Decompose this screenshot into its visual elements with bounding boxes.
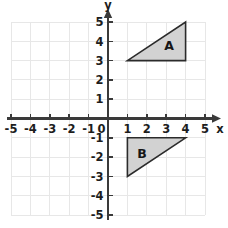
y-tick-label: 2: [95, 73, 103, 87]
x-tick-label: 1: [123, 122, 131, 136]
x-axis-name-label: x: [216, 122, 224, 136]
x-tick-label: -2: [63, 122, 76, 136]
y-tick-label: 3: [95, 54, 103, 68]
x-tick-label: 5: [201, 122, 209, 136]
shape-label-b: B: [137, 146, 147, 161]
x-tick-label: -3: [43, 122, 56, 136]
y-tick-label: 1: [95, 92, 103, 106]
x-tick-label: 3: [162, 122, 170, 136]
y-tick-label: -5: [91, 208, 104, 222]
y-tick-label: -3: [91, 170, 104, 184]
y-tick-label: 4: [95, 35, 103, 49]
shape-label-a: A: [164, 38, 174, 53]
y-tick-label: 5: [95, 15, 103, 29]
x-tick-label: -5: [5, 122, 18, 136]
x-tick-label: 4: [182, 122, 190, 136]
coordinate-plane-svg: -5-4-3-2-11234554321-1-2-3-4-5 AB x y 0: [0, 0, 228, 228]
x-tick-label: -4: [24, 122, 37, 136]
y-axis-name-label: y: [104, 0, 112, 12]
origin-label: 0: [97, 122, 105, 136]
coordinate-plane-figure: -5-4-3-2-11234554321-1-2-3-4-5 AB x y 0: [0, 0, 228, 228]
x-tick-label: 2: [143, 122, 151, 136]
y-tick-label: -4: [91, 189, 104, 203]
canvas-background: [0, 0, 228, 228]
y-tick-label: -2: [91, 150, 104, 164]
